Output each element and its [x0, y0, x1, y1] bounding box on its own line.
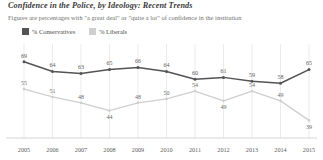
svg-text:2014: 2014: [274, 146, 286, 153]
legend-label-conservatives: % Conservatives: [32, 28, 75, 35]
svg-text:2012: 2012: [217, 146, 229, 153]
svg-text:48: 48: [78, 94, 84, 100]
svg-text:2006: 2006: [46, 146, 58, 153]
svg-text:2007: 2007: [75, 146, 87, 153]
svg-text:54: 54: [192, 82, 198, 88]
svg-text:49: 49: [278, 92, 284, 98]
legend-label-liberals: % Liberals: [99, 28, 127, 35]
svg-text:58: 58: [278, 74, 284, 80]
svg-text:63: 63: [78, 64, 84, 70]
svg-text:65: 65: [306, 60, 312, 66]
svg-text:65: 65: [107, 60, 113, 66]
legend-item-liberals[interactable]: % Liberals: [89, 28, 127, 35]
chart-plot-area: 5551484448505449544939 69646365666460615…: [0, 44, 323, 160]
legend-swatch-liberals: [89, 28, 96, 35]
chart-svg: 5551484448505449544939 69646365666460615…: [0, 44, 323, 160]
svg-text:61: 61: [221, 68, 227, 74]
legend-item-conservatives[interactable]: % Conservatives: [22, 28, 75, 35]
chart-legend: % Conservatives % Liberals: [22, 28, 127, 35]
svg-text:51: 51: [50, 88, 56, 94]
svg-text:2015: 2015: [303, 146, 315, 153]
chart-subtitle: Figures are percentages with "a great de…: [8, 14, 242, 21]
svg-text:54: 54: [249, 82, 255, 88]
svg-text:2010: 2010: [160, 146, 172, 153]
svg-text:50: 50: [164, 90, 170, 96]
svg-text:2005: 2005: [18, 146, 30, 153]
svg-text:64: 64: [164, 62, 170, 68]
svg-text:2008: 2008: [103, 146, 115, 153]
svg-text:2009: 2009: [132, 146, 144, 153]
legend-swatch-conservatives: [22, 28, 29, 35]
svg-text:2013: 2013: [246, 146, 258, 153]
svg-text:48: 48: [135, 94, 141, 100]
svg-text:55: 55: [21, 80, 27, 86]
svg-text:44: 44: [107, 114, 113, 120]
x-axis-tick-labels: 2005200620072008200920102011201220132014…: [18, 146, 315, 153]
svg-text:49: 49: [221, 104, 227, 110]
chart-container: Confidence in the Police, by Ideology: R…: [0, 0, 323, 160]
svg-text:64: 64: [50, 62, 56, 68]
svg-text:60: 60: [192, 70, 198, 76]
chart-title: Confidence in the Police, by Ideology: R…: [8, 1, 193, 10]
svg-text:2011: 2011: [189, 146, 201, 153]
svg-text:39: 39: [306, 124, 312, 130]
svg-text:59: 59: [249, 72, 255, 78]
svg-text:69: 69: [21, 53, 27, 59]
svg-text:66: 66: [135, 58, 141, 64]
